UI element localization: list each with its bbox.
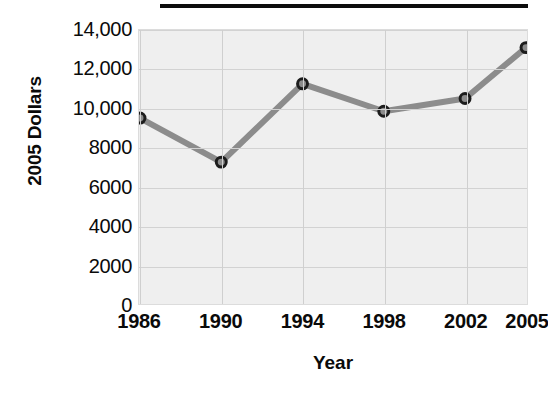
gridline-horizontal (139, 109, 527, 110)
y-axis-tick-label: 10,000 (22, 96, 132, 119)
x-axis-tick-label: 2002 (444, 310, 487, 333)
y-axis-tick-label: 14,000 (22, 18, 132, 41)
gridline-vertical (140, 30, 141, 304)
y-axis-tick-labels: 0200040006000800010,00012,00014,000 (22, 29, 132, 305)
gridline-vertical (385, 30, 386, 304)
data-point-marker (379, 106, 389, 116)
gridline-vertical (222, 30, 223, 304)
y-axis-tick-label: 0 (22, 294, 132, 317)
gridline-horizontal (139, 148, 527, 149)
y-axis-tick-label: 8000 (22, 136, 132, 159)
x-axis-tick-label: 2005 (505, 310, 548, 333)
x-axis-tick-labels: 198619901994199820022005 (138, 310, 528, 344)
y-axis-tick-label: 6000 (22, 175, 132, 198)
y-axis-tick-label: 4000 (22, 215, 132, 238)
gridline-horizontal (139, 69, 527, 70)
x-axis-tick-label: 1990 (199, 310, 242, 333)
data-point-marker (521, 43, 527, 53)
gridline-vertical (467, 30, 468, 304)
title-underline-rule (160, 4, 528, 8)
gridline-vertical (303, 30, 304, 304)
gridline-horizontal (139, 188, 527, 189)
gridline-horizontal (139, 227, 527, 228)
series-line (140, 48, 526, 162)
x-axis-title: Year (138, 352, 528, 374)
line-series (139, 30, 527, 304)
chart-figure: 2005 Dollars 0200040006000800010,00012,0… (0, 0, 548, 399)
plot-area (138, 29, 528, 305)
x-axis-tick-label: 1986 (117, 310, 160, 333)
gridline-horizontal (139, 267, 527, 268)
x-axis-tick-label: 1994 (281, 310, 324, 333)
gridline-horizontal (139, 30, 527, 31)
data-point-marker (460, 94, 470, 104)
y-axis-tick-label: 2000 (22, 254, 132, 277)
x-axis-tick-label: 1998 (362, 310, 405, 333)
y-axis-tick-label: 12,000 (22, 57, 132, 80)
